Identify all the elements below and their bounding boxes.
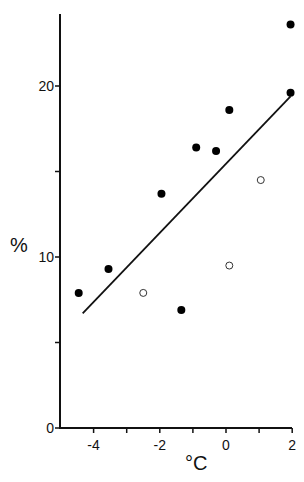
x-tick-label: -2 (154, 437, 167, 453)
scatter-chart: -4-20201020 % °C (0, 0, 304, 482)
filled-point (104, 265, 112, 273)
filled-point (287, 89, 295, 97)
open-point (257, 177, 264, 184)
y-axis-label: % (10, 234, 28, 256)
filled-point (75, 289, 83, 297)
filled-point (192, 144, 200, 152)
y-tick-label: 0 (46, 420, 54, 436)
open-point (226, 262, 233, 269)
regression-line (83, 96, 291, 313)
filled-point (225, 106, 233, 114)
x-tick-label: 0 (222, 437, 230, 453)
x-tick-label: 2 (288, 437, 296, 453)
filled-point (287, 20, 295, 28)
filled-point (177, 306, 185, 314)
axes: -4-20201020 (38, 14, 296, 453)
filled-point (212, 147, 220, 155)
y-tick-label: 20 (38, 78, 54, 94)
x-tick-label: -4 (87, 437, 100, 453)
data-points (75, 20, 295, 314)
x-axis-label: °C (185, 452, 207, 474)
y-tick-label: 10 (38, 249, 54, 265)
filled-point (157, 190, 165, 198)
open-point (140, 289, 147, 296)
